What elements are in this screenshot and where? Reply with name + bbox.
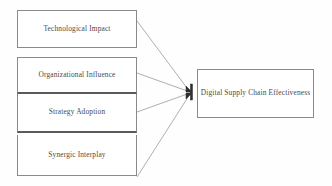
- connector-strategy-adoption: [137, 93, 190, 112]
- node-digital-supply-chain-effectiveness[interactable]: Digital Supply Chain Effectiveness: [197, 69, 314, 118]
- node-synergic-interplay[interactable]: Synergic Interplay: [17, 135, 137, 176]
- connector-organizational-influence: [137, 73, 190, 92]
- connector-technological-impact: [137, 21, 190, 92]
- diagram-canvas: Technological Impact Organizational Infl…: [0, 0, 332, 186]
- node-label: Synergic Interplay: [48, 151, 105, 160]
- node-label: Technological Impact: [43, 25, 110, 34]
- arrow-head-icon: [186, 84, 193, 100]
- node-label: Digital Supply Chain Effectiveness: [201, 89, 310, 98]
- node-label: Strategy Adoption: [49, 108, 106, 117]
- connector-synergic-interplay: [137, 94, 190, 177]
- node-strategy-adoption[interactable]: Strategy Adoption: [17, 94, 137, 133]
- node-organizational-influence[interactable]: Organizational Influence: [17, 57, 137, 94]
- node-technological-impact[interactable]: Technological Impact: [17, 10, 137, 48]
- node-label: Organizational Influence: [38, 71, 115, 80]
